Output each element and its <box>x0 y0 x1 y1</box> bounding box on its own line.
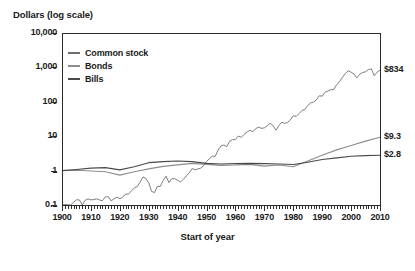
x-minor-tick <box>247 206 248 209</box>
x-minor-tick <box>316 206 317 209</box>
x-minor-tick <box>308 206 309 209</box>
x-axis-ticks <box>62 206 381 211</box>
x-minor-tick <box>319 206 320 209</box>
x-minor-tick <box>244 206 245 209</box>
x-major-tick <box>207 206 208 211</box>
x-minor-tick <box>250 206 251 209</box>
y-tick-label: 1,000 <box>8 61 57 71</box>
x-tick-label: 1980 <box>284 212 303 222</box>
x-major-tick <box>62 206 63 211</box>
x-minor-tick <box>166 206 167 209</box>
x-minor-tick <box>340 206 341 209</box>
x-minor-tick <box>195 206 196 209</box>
x-minor-tick <box>181 206 182 209</box>
x-tick-label: 2010 <box>370 212 389 222</box>
series-line <box>62 155 380 170</box>
x-minor-tick <box>311 206 312 209</box>
x-major-tick <box>149 206 150 211</box>
x-minor-tick <box>102 206 103 209</box>
x-major-tick <box>235 206 236 211</box>
x-minor-tick <box>157 206 158 209</box>
x-minor-tick <box>137 206 138 209</box>
series-end-label: $834 <box>384 64 403 74</box>
x-minor-tick <box>273 206 274 209</box>
x-minor-tick <box>377 206 378 209</box>
plot-frame-right <box>380 33 381 206</box>
legend-item: Bills <box>68 73 188 85</box>
x-minor-tick <box>172 206 173 209</box>
x-minor-tick <box>74 206 75 209</box>
x-minor-tick <box>337 206 338 209</box>
series-line <box>62 137 380 175</box>
x-minor-tick <box>302 206 303 209</box>
legend-label: Bills <box>85 74 103 84</box>
plot-frame-top <box>62 33 381 34</box>
chart-legend: Common stockBondsBills <box>68 47 188 86</box>
x-minor-tick <box>256 206 257 209</box>
legend-item: Bonds <box>68 60 188 72</box>
y-axis-tick-labels: 10,0001,0001001010.1 <box>0 33 57 206</box>
x-minor-tick <box>348 206 349 209</box>
x-tick-label: 1970 <box>255 212 274 222</box>
x-minor-tick <box>204 206 205 209</box>
x-minor-tick <box>233 206 234 209</box>
legend-swatch <box>68 52 80 54</box>
x-minor-tick <box>215 206 216 209</box>
series-line <box>62 69 380 205</box>
x-minor-tick <box>279 206 280 209</box>
x-tick-label: 1960 <box>226 212 245 222</box>
x-minor-tick <box>126 206 127 209</box>
x-minor-tick <box>76 206 77 209</box>
x-minor-tick <box>371 206 372 209</box>
x-minor-tick <box>230 206 231 209</box>
x-minor-tick <box>241 206 242 209</box>
x-minor-tick <box>374 206 375 209</box>
x-minor-tick <box>253 206 254 209</box>
plot-frame-left <box>62 33 63 206</box>
x-minor-tick <box>117 206 118 209</box>
x-minor-tick <box>131 206 132 209</box>
series-end-label: $2.8 <box>384 149 401 159</box>
x-minor-tick <box>285 206 286 209</box>
x-minor-tick <box>175 206 176 209</box>
x-minor-tick <box>114 206 115 209</box>
x-minor-tick <box>342 206 343 209</box>
x-minor-tick <box>360 206 361 209</box>
x-minor-tick <box>100 206 101 209</box>
x-minor-tick <box>325 206 326 209</box>
y-tick-mark <box>51 136 57 137</box>
x-minor-tick <box>160 206 161 209</box>
x-minor-tick <box>143 206 144 209</box>
legend-swatch <box>68 78 80 80</box>
x-minor-tick <box>105 206 106 209</box>
x-minor-tick <box>189 206 190 209</box>
x-minor-tick <box>140 206 141 209</box>
x-tick-label: 1910 <box>81 212 100 222</box>
x-minor-tick <box>227 206 228 209</box>
x-minor-tick <box>334 206 335 209</box>
x-minor-tick <box>186 206 187 209</box>
y-tick-mark <box>51 67 57 68</box>
x-minor-tick <box>192 206 193 209</box>
x-tick-label: 1930 <box>139 212 158 222</box>
y-tick-label: 10,000 <box>8 27 57 37</box>
y-tick-label: 10 <box>8 130 57 140</box>
x-minor-tick <box>71 206 72 209</box>
x-major-tick <box>91 206 92 211</box>
x-minor-tick <box>282 206 283 209</box>
legend-label: Common stock <box>85 48 148 58</box>
x-minor-tick <box>128 206 129 209</box>
x-minor-tick <box>331 206 332 209</box>
y-tick-mark <box>51 205 57 206</box>
legend-item: Common stock <box>68 47 188 59</box>
x-major-tick <box>322 206 323 211</box>
x-minor-tick <box>218 206 219 209</box>
y-tick-mark <box>51 33 57 34</box>
x-minor-tick <box>267 206 268 209</box>
x-minor-tick <box>111 206 112 209</box>
x-minor-tick <box>259 206 260 209</box>
chart-container: Dollars (log scale) 10,0001,0001001010.1… <box>0 0 415 271</box>
x-minor-tick <box>68 206 69 209</box>
series-end-label: $9.3 <box>384 131 401 141</box>
x-tick-label: 1940 <box>168 212 187 222</box>
